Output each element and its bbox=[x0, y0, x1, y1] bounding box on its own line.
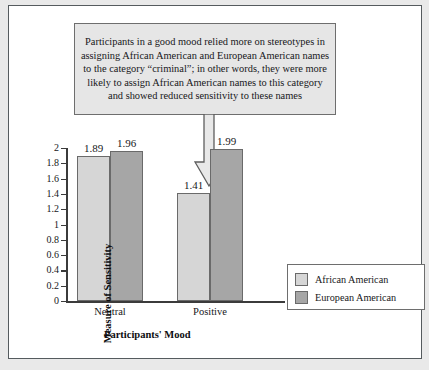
legend-item-european-american: European American bbox=[295, 288, 424, 306]
y-tick-label: 0.8 bbox=[47, 235, 60, 245]
figure-frame: Participants in a good mood relied more … bbox=[8, 5, 422, 359]
y-tick-label: 1.8 bbox=[47, 158, 60, 168]
legend-item-label: African American bbox=[315, 274, 388, 285]
bar-positive-african-american[interactable]: 1.41 bbox=[177, 193, 210, 301]
legend-swatch-icon bbox=[295, 291, 308, 304]
page-background: Participants in a good mood relied more … bbox=[0, 0, 429, 370]
bar-value-label: 1.99 bbox=[217, 136, 236, 147]
y-tick-label: 1 bbox=[54, 220, 59, 230]
y-tick-label: 0.6 bbox=[47, 250, 60, 260]
y-tick-label: 1.6 bbox=[47, 174, 60, 184]
x-axis-title: Participants' Mood bbox=[104, 329, 191, 340]
legend-item-african-american: African American bbox=[295, 270, 424, 288]
bar-neutral-european-american[interactable]: 1.96 bbox=[110, 151, 143, 301]
y-tick-label: 1.4 bbox=[47, 189, 60, 199]
y-tick-label: 0.4 bbox=[47, 265, 60, 275]
y-tick-label: 2 bbox=[54, 143, 59, 153]
bar-value-label: 1.41 bbox=[184, 180, 203, 191]
bar-positive-european-american[interactable]: 1.99 bbox=[210, 149, 243, 301]
y-tick-label: 1.2 bbox=[47, 204, 60, 214]
annotation-callout: Participants in a good mood relied more … bbox=[74, 23, 336, 115]
y-tick-label: 0 bbox=[54, 296, 59, 306]
legend-swatch-icon bbox=[295, 273, 308, 286]
bar-value-label: 1.89 bbox=[84, 143, 103, 154]
y-tick-label: 0.2 bbox=[47, 281, 60, 291]
legend: African American European American bbox=[287, 264, 425, 310]
plot-area: 0 0.2 0.4 0.6 0.8 1 bbox=[66, 148, 271, 301]
x-axis-line bbox=[66, 301, 285, 303]
y-axis-title: Measure of Sensitivity bbox=[102, 209, 113, 370]
legend-item-label: European American bbox=[315, 292, 396, 303]
bar-value-label: 1.96 bbox=[117, 138, 136, 149]
annotation-text: Participants in a good mood relied more … bbox=[75, 35, 335, 103]
x-category-label-positive: Positive bbox=[193, 306, 227, 317]
y-axis-line bbox=[66, 148, 68, 301]
